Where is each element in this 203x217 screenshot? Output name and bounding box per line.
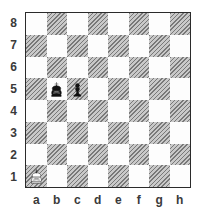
- board-square-h5[interactable]: [170, 78, 191, 100]
- board-square-h6[interactable]: [170, 57, 191, 79]
- board-square-c4[interactable]: [67, 100, 88, 122]
- board-square-h4[interactable]: [170, 100, 191, 122]
- board-square-f6[interactable]: [129, 57, 150, 79]
- board-square-c6[interactable]: [67, 57, 88, 79]
- board-square-c2[interactable]: [67, 144, 88, 166]
- chess-diagram: 8 7 6 5 4 3 2 1: [0, 0, 203, 217]
- board-square-h7[interactable]: [170, 35, 191, 57]
- board-square-c5[interactable]: [67, 78, 88, 100]
- board-square-d3[interactable]: [88, 122, 109, 144]
- board-square-e5[interactable]: [108, 78, 129, 100]
- board-square-a2[interactable]: [26, 144, 47, 166]
- board-square-e1[interactable]: [108, 165, 129, 187]
- board-grid: [26, 13, 190, 187]
- board-square-b2[interactable]: [47, 144, 68, 166]
- board-square-a7[interactable]: [26, 35, 47, 57]
- board-square-f2[interactable]: [129, 144, 150, 166]
- board-square-h3[interactable]: [170, 122, 191, 144]
- rank-label-6: 6: [4, 56, 23, 78]
- board-square-g5[interactable]: [149, 78, 170, 100]
- file-labels: a b c d e f g h: [26, 190, 190, 210]
- file-label-b: b: [47, 190, 68, 210]
- board-square-b4[interactable]: [47, 100, 68, 122]
- board-square-c3[interactable]: [67, 122, 88, 144]
- board-square-g7[interactable]: [149, 35, 170, 57]
- board-square-d7[interactable]: [88, 35, 109, 57]
- file-label-e: e: [108, 190, 129, 210]
- board-square-d2[interactable]: [88, 144, 109, 166]
- file-label-g: g: [149, 190, 170, 210]
- board-square-e7[interactable]: [108, 35, 129, 57]
- board-square-g1[interactable]: [149, 165, 170, 187]
- board-square-g4[interactable]: [149, 100, 170, 122]
- board-square-b8[interactable]: [47, 13, 68, 35]
- rank-label-1: 1: [4, 166, 23, 188]
- black-pawn-icon[interactable]: [67, 78, 88, 100]
- board-square-a8[interactable]: [26, 13, 47, 35]
- board-square-c1[interactable]: [67, 165, 88, 187]
- file-label-d: d: [88, 190, 109, 210]
- board-square-f7[interactable]: [129, 35, 150, 57]
- rank-label-7: 7: [4, 34, 23, 56]
- board-square-g8[interactable]: [149, 13, 170, 35]
- board-square-f3[interactable]: [129, 122, 150, 144]
- rank-label-5: 5: [4, 78, 23, 100]
- board-square-e8[interactable]: [108, 13, 129, 35]
- file-label-a: a: [26, 190, 47, 210]
- rank-labels: 8 7 6 5 4 3 2 1: [4, 12, 23, 188]
- board-square-b6[interactable]: [47, 57, 68, 79]
- board-square-a5[interactable]: [26, 78, 47, 100]
- board-square-c7[interactable]: [67, 35, 88, 57]
- board-square-d1[interactable]: [88, 165, 109, 187]
- board-frame: [25, 12, 191, 188]
- board-square-c8[interactable]: [67, 13, 88, 35]
- board-square-g6[interactable]: [149, 57, 170, 79]
- board-square-h1[interactable]: [170, 165, 191, 187]
- board-square-e3[interactable]: [108, 122, 129, 144]
- file-label-h: h: [170, 190, 191, 210]
- board-square-b5[interactable]: [47, 78, 68, 100]
- board-square-d4[interactable]: [88, 100, 109, 122]
- file-label-f: f: [129, 190, 150, 210]
- rank-label-8: 8: [4, 12, 23, 34]
- board-square-d5[interactable]: [88, 78, 109, 100]
- board-square-f4[interactable]: [129, 100, 150, 122]
- board-square-d6[interactable]: [88, 57, 109, 79]
- black-king-icon[interactable]: [47, 78, 68, 100]
- board-square-e6[interactable]: [108, 57, 129, 79]
- rank-label-3: 3: [4, 122, 23, 144]
- board-square-a3[interactable]: [26, 122, 47, 144]
- board-square-e4[interactable]: [108, 100, 129, 122]
- board-square-b3[interactable]: [47, 122, 68, 144]
- rank-label-4: 4: [4, 100, 23, 122]
- board-square-f1[interactable]: [129, 165, 150, 187]
- board-square-f8[interactable]: [129, 13, 150, 35]
- board-square-a4[interactable]: [26, 100, 47, 122]
- board-square-g2[interactable]: [149, 144, 170, 166]
- board-square-b1[interactable]: [47, 165, 68, 187]
- file-label-c: c: [67, 190, 88, 210]
- board-square-f5[interactable]: [129, 78, 150, 100]
- board-square-g3[interactable]: [149, 122, 170, 144]
- rank-label-2: 2: [4, 144, 23, 166]
- board-square-h2[interactable]: [170, 144, 191, 166]
- white-king-icon[interactable]: [26, 165, 47, 187]
- board-square-b7[interactable]: [47, 35, 68, 57]
- board-square-d8[interactable]: [88, 13, 109, 35]
- board-square-e2[interactable]: [108, 144, 129, 166]
- board-square-a1[interactable]: [26, 165, 47, 187]
- board-square-a6[interactable]: [26, 57, 47, 79]
- board-square-h8[interactable]: [170, 13, 191, 35]
